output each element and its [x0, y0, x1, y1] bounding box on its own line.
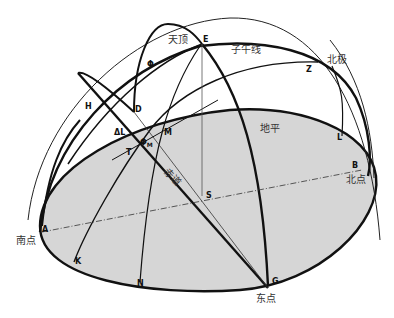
point-h: H — [85, 102, 92, 111]
point-s: S — [206, 191, 212, 200]
point-e: E — [203, 35, 208, 44]
point-delta-l: ΔL — [114, 128, 125, 137]
north-point-label: 北点 — [346, 174, 366, 185]
point-a: A — [42, 225, 49, 234]
point-phi: Φ — [147, 60, 154, 69]
meridian-label: 子午线 — [231, 43, 261, 55]
point-n: N — [137, 279, 144, 288]
south-point-label: 南点 — [16, 234, 36, 246]
horizon-plane — [40, 109, 376, 291]
point-t: T — [126, 148, 132, 157]
zenith-label: 天顶 — [168, 34, 188, 45]
horizon-label: 地平 — [260, 122, 280, 134]
point-z: Z — [306, 65, 312, 74]
point-l: L — [337, 133, 342, 142]
point-m: M — [164, 128, 172, 137]
point-b: B — [352, 161, 358, 170]
celestial-sphere-diagram: 天顶 子午线 北极 地平 赤道 南点 北点 东点 E Z Φ H D ΔL M … — [0, 0, 394, 318]
east-point-label: 东点 — [256, 292, 276, 304]
north-pole-label: 北极 — [327, 53, 347, 65]
point-g: G — [272, 277, 279, 286]
point-k: K — [75, 257, 82, 266]
point-d: D — [135, 105, 142, 114]
